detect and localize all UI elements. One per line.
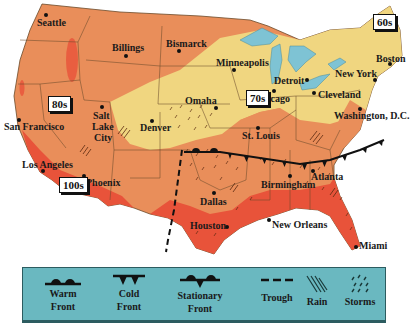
legend-label-storms: Storms	[335, 296, 385, 307]
city-label-birmingham: Birmingham	[261, 180, 315, 190]
city-label-city: City	[94, 133, 112, 143]
map-legend: Warm Front Cold Front Stationary Front T…	[22, 267, 386, 321]
city-label-detroit: Detroit	[274, 76, 304, 86]
city-label-lake: Lake	[92, 122, 114, 132]
city-label-cleveland: Cleveland	[318, 90, 361, 100]
city-label-miami: Miami	[359, 241, 387, 251]
temp-label-80s: 80s	[48, 96, 71, 112]
trough-icon	[257, 274, 297, 286]
city-dot-detroit	[305, 78, 309, 82]
city-label-denver: Denver	[140, 123, 171, 133]
city-label-new-york: New York	[335, 69, 377, 79]
city-dot-billings	[124, 54, 128, 58]
city-label-houston: Houston	[190, 221, 226, 231]
city-label-san-francisco: San Francisco	[4, 122, 64, 132]
city-dot-miami	[354, 245, 358, 249]
temp-label-70s: 70s	[246, 90, 269, 106]
legend-item-stationary-front: Stationary Front	[159, 268, 241, 320]
legend-label-stationary: Stationary	[159, 290, 241, 301]
legend-label-cold: Cold	[93, 288, 165, 299]
city-label-seattle: Seattle	[37, 18, 66, 28]
legend-item-storms: Storms	[335, 268, 385, 320]
city-label-minneapolis: Minneapolis	[216, 58, 269, 68]
city-dot-salt-lake-city	[100, 105, 104, 109]
city-label-billings: Billings	[112, 43, 144, 53]
legend-item-cold-front: Cold Front	[93, 268, 165, 320]
city-label-phoenix: Phoenix	[86, 178, 120, 188]
legend-label-warm: Warm	[27, 288, 99, 299]
city-label-omaha: Omaha	[185, 96, 217, 106]
city-dot-omaha	[214, 106, 218, 110]
cold-front-icon	[109, 274, 149, 286]
storms-icon	[348, 274, 372, 294]
stationary-front-icon	[178, 274, 222, 288]
legend-item-warm-front: Warm Front	[27, 268, 99, 320]
warm-front-icon	[43, 274, 83, 286]
city-dot-minneapolis	[232, 68, 236, 72]
city-label-bismarck: Bismarck	[166, 39, 207, 49]
city-label-salt: Salt	[93, 111, 110, 121]
city-dot-new-orleans	[267, 218, 271, 222]
legend-label-front: Front	[27, 301, 99, 312]
city-label-new-orleans: New Orleans	[272, 220, 327, 230]
city-dot-bismarck	[177, 49, 181, 53]
city-label-los-angeles: Los Angeles	[22, 160, 73, 170]
city-dot-cleveland	[312, 91, 316, 95]
rain-icon	[305, 274, 329, 294]
city-dot-birmingham	[288, 174, 292, 178]
city-dot-dallas	[212, 191, 216, 195]
city-label-boston: Boston	[376, 54, 405, 64]
temp-label-60s: 60s	[373, 14, 396, 30]
legend-label-rain: Rain	[295, 296, 339, 307]
temp-label-100s: 100s	[59, 177, 88, 193]
city-label-washington: Washington, D.C.	[334, 111, 410, 121]
city-label-dallas: Dallas	[200, 197, 227, 207]
legend-label-front: Front	[159, 303, 241, 314]
city-label-atlanta: Atlanta	[311, 172, 343, 182]
city-label-st-louis: St. Louis	[242, 131, 280, 141]
legend-label-front: Front	[93, 301, 165, 312]
legend-item-rain: Rain	[295, 268, 339, 320]
